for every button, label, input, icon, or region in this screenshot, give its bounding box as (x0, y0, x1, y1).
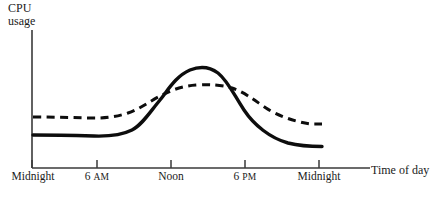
chart-canvas (0, 0, 430, 198)
solid-curve-series (33, 68, 322, 147)
cpu-usage-chart: CPU usage Time of day Midnight 6 AM Noon… (0, 0, 430, 198)
x-axis-label: Time of day (371, 164, 429, 177)
y-axis-label-line1: CPU (8, 1, 31, 15)
y-axis-label-line2: usage (8, 15, 35, 28)
x-tick-label-6pm: 6 PM (217, 170, 273, 183)
x-axis-ticks (32, 160, 319, 168)
dashed-curve-series (33, 85, 322, 124)
y-axis-label: CPU usage (8, 2, 35, 29)
x-tick-label-6am: 6 AM (68, 170, 126, 183)
x-tick-label-midnight-end: Midnight (288, 170, 350, 183)
x-tick-label-noon: Noon (146, 170, 196, 183)
x-tick-label-midnight-start: Midnight (2, 170, 64, 183)
